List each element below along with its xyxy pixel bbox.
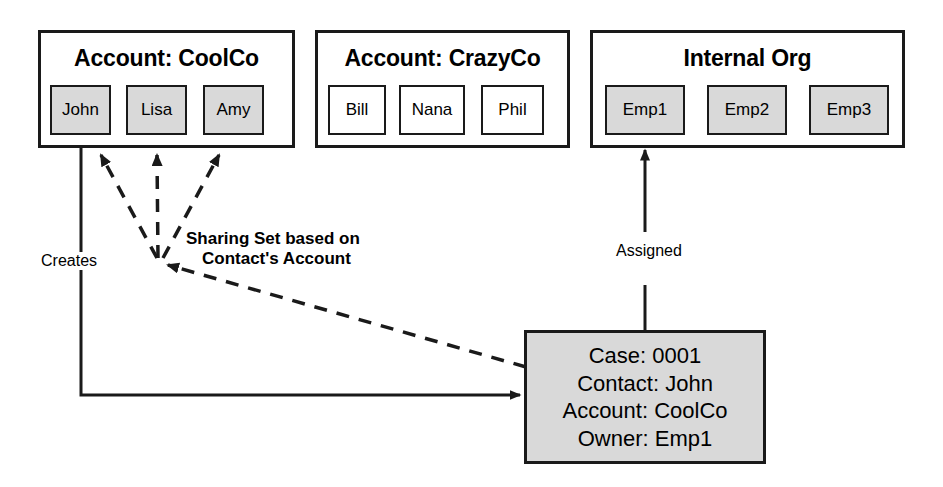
edge-sharing-set-trunk: [168, 265, 526, 367]
member-label-emp1: Emp1: [623, 100, 667, 120]
member-label-emp2: Emp2: [725, 100, 769, 120]
member-label-bill: Bill: [346, 100, 369, 120]
member-label-lisa: Lisa: [141, 100, 172, 120]
edge-label-sharing-set-line2: Contact's Account: [186, 249, 360, 269]
member-box-bill[interactable]: Bill: [328, 85, 386, 135]
edge-label-creates: Creates: [41, 252, 97, 270]
group-title-crazyco: Account: CrazyCo: [318, 45, 567, 72]
group-title-coolco: Account: CoolCo: [41, 45, 292, 72]
edge-label-assigned: Assigned: [616, 242, 682, 260]
member-box-john[interactable]: John: [50, 85, 111, 135]
member-label-amy: Amy: [217, 100, 251, 120]
edge-label-sharing-set: Sharing Set based on Contact's Account: [186, 229, 360, 268]
member-label-nana: Nana: [412, 100, 453, 120]
case-record-line-case: Case: 0001: [589, 342, 702, 370]
case-record-line-owner: Owner: Emp1: [578, 425, 713, 453]
case-record-line-account: Account: CoolCo: [562, 397, 727, 425]
group-title-internal-org: Internal Org: [593, 45, 902, 72]
member-box-nana[interactable]: Nana: [399, 85, 465, 135]
member-box-emp2[interactable]: Emp2: [707, 85, 787, 135]
diagram-canvas: Account: CoolCo John Lisa Amy Account: C…: [0, 0, 943, 487]
member-box-emp1[interactable]: Emp1: [605, 85, 685, 135]
member-label-phil: Phil: [498, 100, 526, 120]
member-box-lisa[interactable]: Lisa: [126, 85, 187, 135]
edge-label-sharing-set-line1: Sharing Set based on: [186, 229, 360, 248]
member-label-emp3: Emp3: [827, 100, 871, 120]
member-box-amy[interactable]: Amy: [203, 85, 264, 135]
edge-sharing-set-to-lisa: [157, 155, 158, 258]
case-record-line-contact: Contact: John: [577, 370, 713, 398]
member-label-john: John: [62, 100, 99, 120]
case-record-box[interactable]: Case: 0001 Contact: John Account: CoolCo…: [524, 330, 766, 464]
member-box-emp3[interactable]: Emp3: [809, 85, 889, 135]
edge-creates-line: [81, 148, 520, 395]
edge-sharing-set-to-john: [101, 155, 157, 258]
member-box-phil[interactable]: Phil: [481, 85, 544, 135]
